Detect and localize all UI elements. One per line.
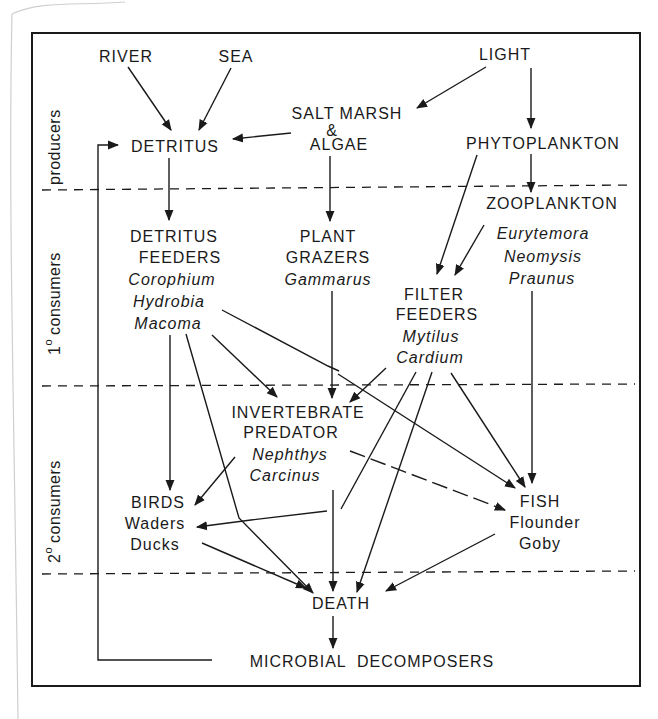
edge-sea-detritus bbox=[199, 68, 231, 130]
node-light: LIGHT bbox=[479, 46, 531, 63]
svg-text:PREDATOR: PREDATOR bbox=[243, 424, 338, 441]
svg-text:INVERTEBRATE: INVERTEBRATE bbox=[231, 404, 364, 421]
band-label-primary: 1oconsumers bbox=[42, 252, 63, 355]
edge-microbial-detritus bbox=[98, 145, 212, 660]
paper-edge bbox=[11, 2, 125, 719]
svg-text:ALGAE: ALGAE bbox=[310, 136, 368, 153]
svg-text:FEEDERS: FEEDERS bbox=[396, 306, 479, 323]
node-sea: SEA bbox=[218, 48, 253, 65]
edge-birds-death bbox=[202, 543, 306, 588]
edge-filterfeeders-birds-2 bbox=[197, 511, 327, 527]
svg-text:SALT MARSH: SALT MARSH bbox=[292, 105, 403, 122]
edge-phytoplankton-filterfeeders bbox=[437, 155, 477, 274]
svg-text:FILTER: FILTER bbox=[404, 286, 464, 303]
node-river: RIVER bbox=[99, 48, 153, 65]
svg-text:Macoma: Macoma bbox=[134, 315, 201, 332]
svg-text:FISH: FISH bbox=[520, 493, 560, 510]
svg-text:PLANT: PLANT bbox=[300, 228, 357, 245]
svg-text:Neomysis: Neomysis bbox=[504, 248, 582, 265]
edges bbox=[98, 67, 532, 660]
node-plant-grazers: PLANT GRAZERS Gammarus bbox=[284, 228, 371, 288]
node-invertebrate-predator: INVERTEBRATE PREDATOR Nephthys Carcinus bbox=[231, 404, 364, 484]
band-label-secondary: 2oconsumers bbox=[42, 460, 63, 563]
edge-saltmarsh-detritus bbox=[233, 133, 291, 139]
edge-filterfeeders-birds bbox=[341, 372, 416, 509]
edge-light-saltmarsh bbox=[417, 67, 486, 108]
node-detritus: DETRITUS bbox=[131, 138, 219, 155]
divider-primary bbox=[42, 384, 635, 386]
divider-secondary bbox=[42, 571, 635, 574]
divider-producers bbox=[42, 185, 630, 190]
svg-text:DETRITUS: DETRITUS bbox=[130, 228, 218, 245]
svg-text:GRAZERS: GRAZERS bbox=[286, 249, 370, 266]
edge-zooplankton-filterfeeders bbox=[455, 225, 484, 275]
edge-fish-death bbox=[386, 534, 495, 591]
svg-text:Praunus: Praunus bbox=[509, 270, 576, 287]
node-saltmarsh: SALT MARSH & ALGAE bbox=[292, 105, 403, 153]
edge-detritusfeeders-invpredator bbox=[212, 335, 277, 397]
node-death: DEATH bbox=[312, 595, 370, 612]
node-detritus-feeders: DETRITUS FEEDERS Corophium Hydrobia Maco… bbox=[128, 228, 221, 332]
svg-text:Goby: Goby bbox=[519, 535, 561, 552]
svg-text:Mytilus: Mytilus bbox=[403, 328, 460, 345]
svg-text:BIRDS: BIRDS bbox=[131, 494, 185, 511]
band-label-producers: producers bbox=[46, 109, 63, 185]
svg-text:Waders: Waders bbox=[125, 515, 186, 532]
node-zooplankton: ZOOPLANKTON Eurytemora Neomysis Praunus bbox=[486, 195, 618, 287]
edge-invpredator-fish bbox=[350, 451, 505, 510]
svg-text:Flounder: Flounder bbox=[509, 514, 580, 531]
svg-text:Cardium: Cardium bbox=[396, 349, 463, 366]
svg-text:ZOOPLANKTON: ZOOPLANKTON bbox=[486, 195, 618, 212]
edge-detritusfeeders-death bbox=[186, 334, 313, 593]
node-birds: BIRDS Waders Ducks bbox=[125, 494, 186, 553]
node-filter-feeders: FILTER FEEDERS Mytilus Cardium bbox=[396, 286, 479, 366]
edge-river-detritus bbox=[128, 67, 171, 130]
food-web-diagram: producers 1oconsumers 2oconsumers RIVER … bbox=[0, 0, 658, 719]
edge-filterfeeders-death bbox=[357, 372, 432, 592]
node-microbial-decomposers: MICROBIAL DECOMPOSERS bbox=[250, 653, 495, 670]
svg-text:Ducks: Ducks bbox=[130, 536, 179, 553]
svg-text:Carcinus: Carcinus bbox=[249, 467, 320, 484]
svg-text:Eurytemora: Eurytemora bbox=[497, 225, 590, 242]
svg-text:Hydrobia: Hydrobia bbox=[133, 293, 205, 310]
svg-text:FEEDERS: FEEDERS bbox=[139, 249, 222, 266]
svg-text:Gammarus: Gammarus bbox=[284, 271, 371, 288]
node-phytoplankton: PHYTOPLANKTON bbox=[466, 135, 620, 152]
svg-text:Nephthys: Nephthys bbox=[252, 446, 328, 463]
svg-text:Corophium: Corophium bbox=[128, 271, 215, 288]
node-fish: FISH Flounder Goby bbox=[509, 493, 580, 552]
